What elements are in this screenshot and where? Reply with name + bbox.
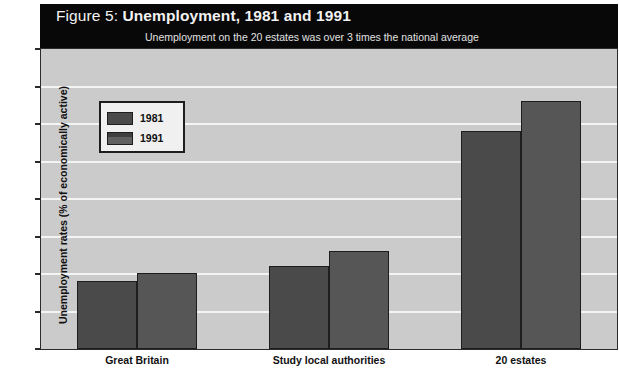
- y-axis-tick-mark: [35, 48, 40, 50]
- figure-title: Figure 5: Unemployment, 1981 and 1991: [56, 7, 351, 25]
- legend-item-1991: 1991: [107, 128, 177, 148]
- y-axis-tick-mark: [35, 161, 40, 163]
- legend-label-1981: 1981: [140, 112, 163, 124]
- bar-1991-20-estates: [521, 101, 581, 350]
- y-axis-tick-mark: [35, 273, 40, 275]
- x-axis-category-label: Great Britain: [105, 354, 169, 366]
- y-axis-tick-mark: [35, 348, 40, 350]
- bar-1991-great-britain: [137, 273, 197, 349]
- title-bar: Figure 5: Unemployment, 1981 and 1991 Un…: [40, 4, 618, 48]
- bar-1981-study-local-authorities: [269, 266, 329, 350]
- plot-area: [41, 49, 617, 349]
- figure-title-text: Unemployment, 1981 and 1991: [122, 7, 350, 24]
- legend-swatch-icon-1981: [107, 112, 133, 125]
- bar-1981-great-britain: [77, 281, 137, 350]
- y-axis-tick-mark: [35, 86, 40, 88]
- legend-swatch-icon-1991: [107, 132, 133, 145]
- legend: 1981 1991: [99, 101, 185, 153]
- legend-label-1991: 1991: [140, 132, 163, 144]
- figure-container: Figure 5: Unemployment, 1981 and 1991 Un…: [0, 0, 619, 376]
- y-axis-tick-mark: [35, 198, 40, 200]
- x-axis-category-label: Study local authorities: [273, 354, 386, 366]
- x-axis-category-label: 20 estates: [496, 354, 547, 366]
- y-axis-tick-mark: [35, 311, 40, 313]
- y-axis-title: Unemployment rates (% of economically ac…: [57, 65, 69, 345]
- bar-1981-20-estates: [461, 131, 521, 350]
- figure-subtitle: Unemployment on the 20 estates was over …: [145, 31, 479, 43]
- gridline: [41, 86, 617, 88]
- y-axis-tick-mark: [35, 123, 40, 125]
- figure-number: Figure 5:: [56, 7, 122, 24]
- y-axis-tick-mark: [35, 236, 40, 238]
- legend-item-1981: 1981: [107, 108, 177, 128]
- plot-frame: Unemployment rates (% of economically ac…: [40, 48, 618, 350]
- bar-1991-study-local-authorities: [329, 251, 389, 350]
